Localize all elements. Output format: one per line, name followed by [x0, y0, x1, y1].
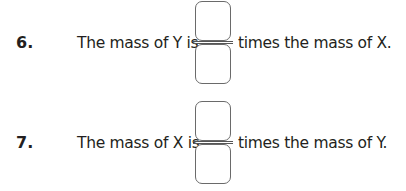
denominator-input-box[interactable] — [195, 44, 231, 84]
question-7: 7. The mass of X is times the mass of Y. — [0, 100, 406, 191]
fraction-answer — [195, 1, 231, 85]
fraction-bar — [193, 41, 233, 42]
question-6: 6. The mass of Y is times the mass of X. — [0, 0, 406, 95]
fraction-bar — [193, 141, 233, 142]
question-number: 7. — [16, 135, 33, 151]
question-text-after: times the mass of Y. — [238, 135, 387, 151]
numerator-input-box[interactable] — [195, 101, 231, 141]
question-number: 6. — [16, 35, 33, 51]
question-text-before: The mass of X is — [77, 135, 199, 151]
numerator-input-box[interactable] — [195, 1, 231, 41]
question-text-before: The mass of Y is — [77, 35, 198, 51]
question-text-after: times the mass of X. — [238, 35, 391, 51]
fraction-answer — [195, 101, 231, 185]
denominator-input-box[interactable] — [195, 144, 231, 184]
